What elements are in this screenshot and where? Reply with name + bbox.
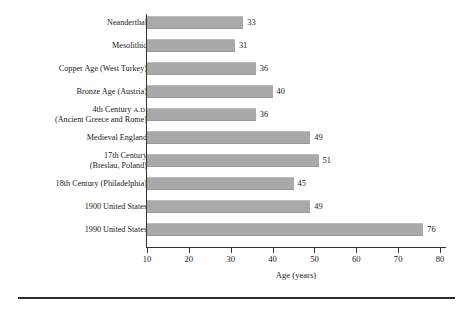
x-axis-tick-label: 20 (176, 254, 202, 264)
y-axis-line (146, 14, 147, 247)
bar-row: 18th Century (Philadelphia)45 (0, 177, 467, 200)
bar (147, 154, 319, 167)
category-label: Medieval England (0, 133, 147, 142)
x-axis-tick (147, 248, 148, 253)
bar-row: Neanderthal33 (0, 16, 467, 39)
category-label: 1990 United States (0, 225, 147, 234)
category-label: Mesolithic (0, 41, 147, 50)
bar (147, 131, 310, 144)
bar-value-label: 76 (427, 223, 435, 236)
x-axis-tick (398, 248, 399, 253)
bar-value-label: 36 (260, 62, 268, 75)
bar-value-label: 36 (260, 108, 268, 121)
x-axis-tick-label: 70 (385, 254, 411, 264)
bar-value-label: 40 (277, 85, 285, 98)
category-label: 17th Century(Breslau, Poland) (0, 151, 147, 169)
bar-row: 4th Century A.D.(Ancient Greece and Rome… (0, 108, 467, 131)
x-axis-tick (273, 248, 274, 253)
smallcaps-text: A.D. (133, 106, 147, 113)
bar-row: 1900 United States49 (0, 200, 467, 223)
bar-value-label: 49 (314, 131, 322, 144)
category-label: Copper Age (West Turkey) (0, 64, 147, 73)
bar-value-label: 33 (247, 16, 255, 29)
bar-row: Copper Age (West Turkey)36 (0, 62, 467, 85)
x-axis-tick-label: 40 (260, 254, 286, 264)
bar (147, 108, 256, 121)
x-axis-tick-label: 30 (218, 254, 244, 264)
bar-row: Mesolithic31 (0, 39, 467, 62)
bar (147, 223, 423, 236)
x-axis-tick (189, 248, 190, 253)
bar (147, 177, 294, 190)
bar-value-label: 49 (314, 200, 322, 213)
bar-value-label: 51 (323, 154, 331, 167)
x-axis-tick (314, 248, 315, 253)
category-label: 4th Century A.D.(Ancient Greece and Rome… (0, 105, 147, 123)
bar (147, 85, 273, 98)
bar-row: 1990 United States76 (0, 223, 467, 246)
x-axis-tick-label: 80 (427, 254, 453, 264)
bar (147, 39, 235, 52)
footer-divider (18, 297, 455, 299)
bar-value-label: 31 (239, 39, 247, 52)
x-axis-tick (356, 248, 357, 253)
category-label: 18th Century (Philadelphia) (0, 179, 147, 188)
x-axis-title: Age (years) (146, 270, 446, 280)
category-label: Bronze Age (Austria) (0, 87, 147, 96)
figure: Neanderthal33Mesolithic31Copper Age (Wes… (0, 0, 467, 309)
plot-area: Neanderthal33Mesolithic31Copper Age (Wes… (0, 0, 467, 260)
x-axis-tick-label: 50 (301, 254, 327, 264)
x-axis-tick (231, 248, 232, 253)
bar (147, 200, 310, 213)
category-label: Neanderthal (0, 18, 147, 27)
bar (147, 62, 256, 75)
bar-row: 17th Century(Breslau, Poland)51 (0, 154, 467, 177)
x-axis-line (146, 247, 446, 248)
bar-value-label: 45 (298, 177, 306, 190)
bar (147, 16, 243, 29)
category-label: 1900 United States (0, 202, 147, 211)
x-axis-tick (440, 248, 441, 253)
x-axis-tick-label: 10 (134, 254, 160, 264)
x-axis-tick-label: 60 (343, 254, 369, 264)
